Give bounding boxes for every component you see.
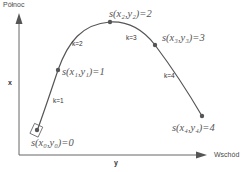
point-4-label: s(x₄,y₄)=4 — [172, 122, 215, 133]
north-label: Północ — [3, 1, 24, 8]
point-0-label: s(x₀,y₀)=0 — [31, 137, 74, 148]
east-label: Wschód — [214, 151, 239, 158]
point-3 — [153, 43, 157, 47]
segment-1-label: k=1 — [53, 97, 64, 104]
point-0 — [35, 128, 39, 132]
point-4 — [200, 114, 204, 118]
x-axis-variable: x — [8, 79, 12, 86]
point-2-label: s(x₂,y₂)=2 — [109, 8, 152, 19]
segment-2-label: k=2 — [72, 40, 83, 47]
point-2 — [108, 20, 112, 24]
y-axis-variable: y — [114, 159, 118, 166]
trajectory-diagram: Północ Wschód x y s(x₀,y₀)=0 s(x₁,y₁)=1 … — [0, 0, 246, 172]
point-1-label: s(x₁,y₁)=1 — [62, 66, 105, 77]
segment-4-label: k=4 — [164, 72, 175, 79]
point-3-label: s(x₃,y₃)=3 — [162, 32, 205, 43]
segment-3-label: k=3 — [126, 34, 137, 41]
point-1 — [56, 68, 60, 72]
east-arrow-icon — [196, 152, 207, 159]
north-arrow-icon — [16, 13, 23, 24]
